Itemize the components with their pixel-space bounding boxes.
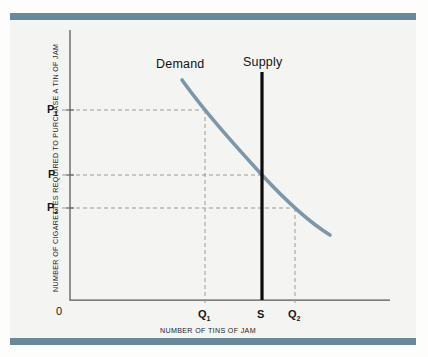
x-tick-label-q2: Q2 xyxy=(288,308,300,322)
demand-curve-label: Demand xyxy=(156,57,204,71)
x-tick-label-q2-text: Q xyxy=(288,308,297,320)
y-tick-label-p1: P1 xyxy=(47,103,58,117)
y-tick-label-p-text: P xyxy=(48,168,55,180)
x-tick-label-q1: Q1 xyxy=(198,308,210,322)
y-tick-label-p2-sub: 2 xyxy=(54,208,58,215)
demand-curve xyxy=(182,80,330,235)
x-tick-label-q1-text: Q xyxy=(198,308,207,320)
y-tick-label-p: P xyxy=(48,168,55,180)
figure-page: NUMBER OF CIGARETTES REQUIRED TO PURCHAS… xyxy=(0,0,428,357)
axis-lines xyxy=(70,30,390,300)
x-tick-label-q2-sub: 2 xyxy=(297,315,301,322)
y-tick-label-p1-sub: 1 xyxy=(54,110,58,117)
supply-demand-figure: NUMBER OF CIGARETTES REQUIRED TO PURCHAS… xyxy=(0,0,428,357)
supply-curve-label: Supply xyxy=(243,55,282,69)
x-tick-label-q1-sub: 1 xyxy=(207,315,211,322)
x-tick-label-s: S xyxy=(257,308,264,320)
origin-label: 0 xyxy=(56,305,62,317)
y-tick-label-p2: P2 xyxy=(47,201,58,215)
x-axis-title: NUMBER OF TINS OF JAM xyxy=(160,327,256,335)
x-tick-label-s-text: S xyxy=(257,308,264,320)
chart-canvas xyxy=(0,0,428,357)
